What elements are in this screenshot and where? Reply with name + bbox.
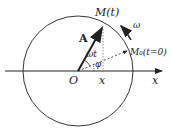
- rotation-arrow: [121, 26, 131, 40]
- origin-label: O: [69, 74, 78, 87]
- phi-arc: [93, 65, 94, 72]
- x-projection-label: x: [99, 74, 106, 87]
- omega-t-label: ωt: [86, 49, 97, 59]
- point-t-label: M(t): [94, 6, 119, 19]
- rotating-vector-diagram: O M(t) M₀(t=0) A ω ωt φ x x: [0, 0, 171, 133]
- phi-label: φ: [95, 59, 102, 69]
- point-0-label: M₀(t=0): [129, 47, 167, 57]
- x-axis-label: x: [152, 74, 159, 87]
- amplitude-label: A: [78, 32, 88, 45]
- omega-t-arc: [84, 60, 90, 66]
- omega-label: ω: [133, 20, 141, 30]
